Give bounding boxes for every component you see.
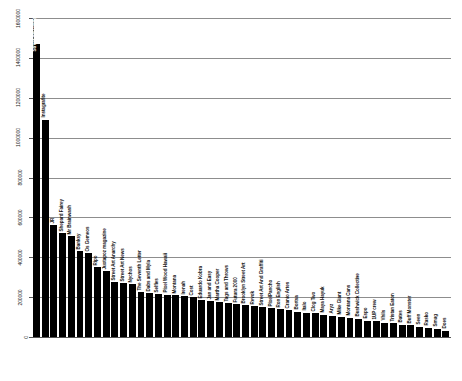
bar-item[interactable]: Street Art And Graffiti: [259, 18, 266, 337]
bar-item[interactable]: Cranio Artes: [286, 18, 293, 337]
bar-item[interactable]: Italo: [303, 18, 310, 337]
bar-item[interactable]: Street Art Anarchy: [111, 18, 118, 337]
bar-rect[interactable]: [198, 300, 205, 337]
bar-item[interactable]: Irenah: [181, 18, 188, 337]
bar-item[interactable]: Rasko: [425, 18, 432, 337]
bar-item[interactable]: Pixel Wood Hawaii: [164, 18, 171, 337]
bar-rect[interactable]: [225, 303, 232, 337]
bar-item[interactable]: The Seventh Letter: [138, 18, 145, 337]
chart-container: 0200000400000600000800000100000012000001…: [0, 0, 462, 381]
bar-item[interactable]: Tags and Throws: [225, 18, 232, 337]
bar-category-label: Smug: [434, 314, 439, 327]
bar-item[interactable]: Ron English: [277, 18, 284, 337]
bar-item[interactable]: Street Art Globe: [33, 18, 40, 337]
bar-item[interactable]: Mike Giant: [338, 18, 345, 337]
bar-rect[interactable]: [164, 295, 171, 337]
bar-rect[interactable]: [207, 301, 214, 337]
bar-rect[interactable]: [399, 325, 406, 337]
bar-rect[interactable]: [320, 315, 327, 337]
bar-rect[interactable]: [286, 310, 293, 337]
bar-item[interactable]: Mr Brainwash: [68, 18, 75, 337]
bar-rect[interactable]: [129, 284, 136, 337]
bar-item[interactable]: Cost: [190, 18, 197, 337]
bar-rect[interactable]: [381, 323, 388, 337]
bar-rect[interactable]: [434, 329, 441, 337]
bar-rect[interactable]: [85, 253, 92, 337]
bar-rect[interactable]: [347, 318, 354, 337]
bar-rect[interactable]: [103, 271, 110, 337]
bar-rect[interactable]: [355, 319, 362, 337]
bar-rect[interactable]: [42, 120, 49, 337]
bar-rect[interactable]: [251, 306, 258, 337]
bar-rect[interactable]: [259, 307, 266, 337]
bar-rect[interactable]: [407, 325, 414, 337]
bar-rect[interactable]: [390, 323, 397, 337]
bar-rect[interactable]: [268, 308, 275, 337]
bar-rect[interactable]: [68, 236, 75, 337]
bar-rect[interactable]: [172, 295, 179, 337]
bar-item[interactable]: JR: [50, 18, 57, 337]
bar-item[interactable]: Montana Cans: [347, 18, 354, 337]
bar-rect[interactable]: [77, 251, 84, 337]
bar-rect[interactable]: [442, 331, 449, 337]
bar-rect[interactable]: [303, 313, 310, 337]
bar-rect[interactable]: [94, 267, 101, 337]
bar-item[interactable]: Tristan Eaton: [390, 18, 397, 337]
bar-rect[interactable]: [181, 296, 188, 337]
bar-item[interactable]: Instagrafite: [42, 18, 49, 337]
bar-rect[interactable]: [33, 44, 40, 337]
bar-rect[interactable]: [146, 293, 153, 337]
bar-item[interactable]: Selfies: [155, 18, 162, 337]
bar-rect[interactable]: [242, 305, 249, 337]
bar-item[interactable]: PixelPancho: [268, 18, 275, 337]
bar-rect[interactable]: [312, 313, 319, 337]
bar-item[interactable]: Eduardo Kobra: [198, 18, 205, 337]
bar-item[interactable]: Bortsa: [294, 18, 301, 337]
bar-rect[interactable]: [416, 327, 423, 337]
bar-item[interactable]: Shepard Fairey: [59, 18, 66, 337]
bar-item[interactable]: Street Art News: [120, 18, 127, 337]
bar-item[interactable]: Does: [442, 18, 449, 337]
bar-item[interactable]: Montana: [172, 18, 179, 337]
bar-rect[interactable]: [59, 233, 66, 337]
bar-rect[interactable]: [373, 321, 380, 337]
bar-item[interactable]: Bates: [399, 18, 406, 337]
bar-category-label: Cost: [190, 285, 195, 295]
bar-item[interactable]: Jan and Easy: [207, 18, 214, 337]
bar-rect[interactable]: [190, 297, 197, 337]
bar-item[interactable]: Revok: [251, 18, 258, 337]
bar-item[interactable]: Ripo: [94, 18, 101, 337]
bar-item[interactable]: Aryz: [329, 18, 336, 337]
bar-item[interactable]: Banksy: [77, 18, 84, 337]
bar-rect[interactable]: [111, 282, 118, 337]
y-axis-tick-label-text: 1000000: [16, 128, 21, 147]
bar-item[interactable]: Smug: [434, 18, 441, 337]
bar-item[interactable]: Martha Cooper: [216, 18, 223, 337]
bar-rect[interactable]: [329, 316, 336, 337]
bar-item[interactable]: Buff Monster: [407, 18, 414, 337]
bar-item[interactable]: Futura 2000: [233, 18, 240, 337]
bar-item[interactable]: Clog Two: [312, 18, 319, 337]
bar-item[interactable]: 1UP crew: [373, 18, 380, 337]
bar-item[interactable]: Juxtapoz magazine: [103, 18, 110, 337]
bar-rect[interactable]: [233, 304, 240, 337]
bar-rect[interactable]: [338, 317, 345, 337]
bar-item[interactable]: Vhils: [381, 18, 388, 337]
bar-item[interactable]: Maya Hayuk: [320, 18, 327, 337]
bar-item[interactable]: Bushwick Collective: [355, 18, 362, 337]
bar-item[interactable]: Espo: [364, 18, 371, 337]
bar-rect[interactable]: [216, 302, 223, 337]
bar-rect[interactable]: [155, 294, 162, 337]
bar-rect[interactable]: [294, 312, 301, 337]
bar-item[interactable]: Seen: [416, 18, 423, 337]
bar-item[interactable]: Brooklyn Street Art: [242, 18, 249, 337]
bar-rect[interactable]: [425, 328, 432, 337]
bar-item[interactable]: Os Gemeos: [85, 18, 92, 337]
bar-rect[interactable]: [138, 292, 145, 337]
bar-item[interactable]: Nychos: [129, 18, 136, 337]
bar-rect[interactable]: [120, 283, 127, 337]
bar-item[interactable]: Dabs and Myla: [146, 18, 153, 337]
bar-rect[interactable]: [277, 309, 284, 337]
bar-rect[interactable]: [364, 321, 371, 337]
bar-rect[interactable]: [50, 225, 57, 337]
